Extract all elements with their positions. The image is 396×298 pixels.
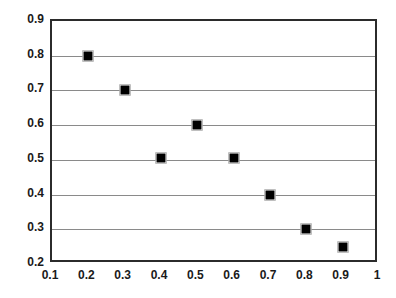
gridline-y-0.3 [52, 229, 375, 230]
data-point [156, 153, 167, 164]
y-tick-label: 0.3 [0, 220, 44, 234]
gridline-y-0.4 [52, 195, 375, 196]
data-point [192, 120, 203, 131]
x-tick-label: 0.7 [260, 268, 277, 282]
plot-area [50, 19, 377, 262]
y-tick-label: 0.8 [0, 47, 44, 61]
y-tick-label: 0.2 [0, 255, 44, 269]
x-tick-label: 0.9 [332, 268, 349, 282]
data-point [265, 189, 276, 200]
chart-container: 0.20.30.40.50.60.70.80.9 0.10.20.30.40.5… [0, 0, 396, 298]
x-tick-label: 0.5 [187, 268, 204, 282]
gridline-y-0.8 [52, 56, 375, 57]
data-point [83, 50, 94, 61]
gridline-y-0.6 [52, 125, 375, 126]
y-tick-label: 0.5 [0, 151, 44, 165]
x-tick-label: 0.3 [114, 268, 131, 282]
y-tick-label: 0.9 [0, 12, 44, 26]
x-tick-label: 0.2 [78, 268, 95, 282]
x-tick-label: 0.6 [223, 268, 240, 282]
y-tick-label: 0.7 [0, 81, 44, 95]
gridline-y-0.7 [52, 90, 375, 91]
x-tick-label: 0.1 [42, 268, 59, 282]
y-tick-label: 0.4 [0, 186, 44, 200]
data-point [337, 241, 348, 252]
y-tick-label: 0.6 [0, 116, 44, 130]
x-tick-label: 0.8 [296, 268, 313, 282]
data-point [119, 85, 130, 96]
gridline-y-0.5 [52, 160, 375, 161]
x-tick-label: 1 [374, 268, 381, 282]
data-point [301, 224, 312, 235]
x-tick-label: 0.4 [151, 268, 168, 282]
data-point [228, 153, 239, 164]
x-axis-tick-labels: 0.10.20.30.40.50.60.70.80.91 [0, 268, 396, 290]
